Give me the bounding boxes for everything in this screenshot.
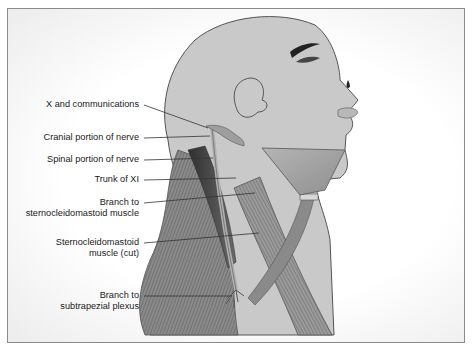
lips: [338, 108, 358, 118]
label-scm-cut: Sternocleidomastoid muscle (cut): [56, 237, 139, 259]
label-branch-to-scm: Branch to sternocleidomastoid muscle: [26, 197, 139, 219]
label-cranial-portion: Cranial portion of nerve: [44, 132, 140, 143]
hyoid-bone: [300, 194, 318, 200]
label-trunk-of-xi: Trunk of XI: [94, 174, 139, 185]
label-spinal-portion: Spinal portion of nerve: [47, 154, 139, 165]
label-branch-to-subtrapezial: Branch to subtrapezial plexus: [60, 290, 139, 312]
nostril: [347, 80, 350, 88]
label-x-and-communications: X and communications: [46, 99, 139, 110]
